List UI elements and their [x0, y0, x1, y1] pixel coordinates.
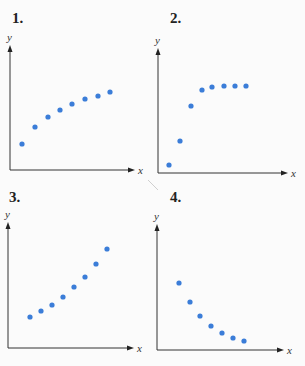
scatter-plot-4: yx	[153, 210, 292, 356]
data-point	[57, 107, 62, 112]
data-point	[93, 261, 98, 266]
data-point	[232, 83, 237, 88]
page-crease	[148, 180, 158, 190]
data-point	[230, 335, 235, 340]
data-point	[219, 330, 224, 335]
y-arrow-icon	[155, 224, 160, 231]
data-point	[241, 338, 246, 343]
scatter-plots: yxyxyxyx	[0, 0, 305, 366]
data-point	[177, 138, 182, 143]
data-point	[176, 280, 181, 285]
data-point	[27, 314, 32, 319]
x-axis-label: x	[136, 342, 142, 354]
data-point	[82, 274, 87, 279]
data-point	[38, 308, 43, 313]
x-axis-label: x	[286, 344, 292, 356]
x-arrow-icon	[281, 171, 288, 176]
data-point	[82, 96, 87, 101]
x-axis-label: x	[137, 164, 143, 176]
y-arrow-icon	[8, 45, 13, 52]
data-point	[209, 84, 214, 89]
data-point	[107, 89, 112, 94]
scatter-plot-2: yx	[154, 34, 296, 179]
y-axis-label: y	[4, 208, 10, 220]
data-point	[45, 114, 50, 119]
y-arrow-icon	[156, 48, 161, 55]
data-point	[208, 323, 213, 328]
x-arrow-icon	[277, 348, 284, 353]
data-point	[188, 103, 193, 108]
y-axis-label: y	[154, 34, 160, 46]
data-point	[221, 83, 226, 88]
x-arrow-icon	[127, 346, 134, 351]
x-axis-label: x	[290, 167, 296, 179]
data-point	[69, 101, 74, 106]
data-point	[71, 284, 76, 289]
x-arrow-icon	[128, 168, 135, 173]
y-axis-label: y	[6, 31, 12, 43]
y-arrow-icon	[6, 222, 11, 229]
data-point	[32, 124, 37, 129]
data-point	[95, 93, 100, 98]
data-point	[104, 246, 109, 251]
data-point	[19, 141, 24, 146]
data-point	[187, 299, 192, 304]
data-point	[197, 313, 202, 318]
data-point	[166, 162, 171, 167]
scatter-plot-1: yx	[6, 31, 143, 176]
data-point	[243, 83, 248, 88]
data-point	[60, 294, 65, 299]
data-point	[49, 302, 54, 307]
y-axis-label: y	[153, 210, 159, 222]
scatter-plot-3: yx	[4, 208, 142, 354]
data-point	[199, 87, 204, 92]
